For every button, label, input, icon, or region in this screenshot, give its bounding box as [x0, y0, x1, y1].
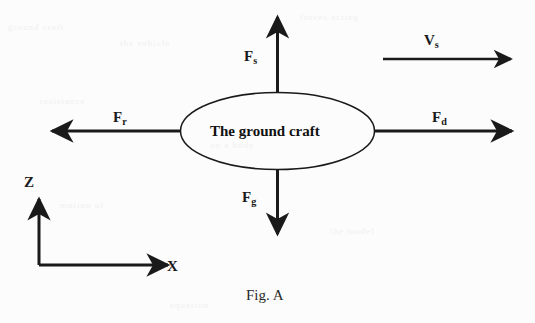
ground-craft-label: The ground craft [210, 123, 320, 140]
force-label-resistance-base: F [113, 109, 122, 125]
scan-artifact: forces acting [300, 12, 359, 22]
force-label-resistance-sub: r [122, 116, 127, 127]
force-label-weight-base: F [242, 189, 251, 205]
force-label-lift-sub: s [253, 55, 257, 66]
force-label-lift-base: F [244, 48, 253, 64]
scan-artifact: equation [170, 300, 209, 310]
figure-caption: Fig. A [246, 287, 284, 304]
figure-diagram: ground craft the vehicle forces acting r… [0, 0, 535, 323]
force-label-resistance: Fr [113, 110, 127, 125]
scan-artifact: the vehicle [120, 38, 170, 48]
scan-artifact: the model [330, 226, 375, 236]
axis-label-z: Z [24, 175, 34, 190]
scan-artifact: on a body [210, 140, 255, 150]
force-label-drive: Fd [432, 110, 447, 125]
scan-artifact: motion of [60, 200, 104, 210]
force-label-weight-sub: g [251, 196, 256, 207]
velocity-label-base: V [424, 32, 435, 48]
diagram-canvas [0, 0, 535, 323]
force-label-weight: Fg [242, 190, 256, 205]
scan-artifact: resistance [40, 96, 85, 106]
scan-artifact: ground craft [8, 22, 64, 32]
force-label-drive-sub: d [441, 116, 447, 127]
force-label-drive-base: F [432, 109, 441, 125]
velocity-label: Vs [424, 33, 439, 48]
force-label-lift: Fs [244, 49, 257, 64]
axis-label-x: X [167, 259, 178, 274]
velocity-label-sub: s [435, 39, 439, 50]
